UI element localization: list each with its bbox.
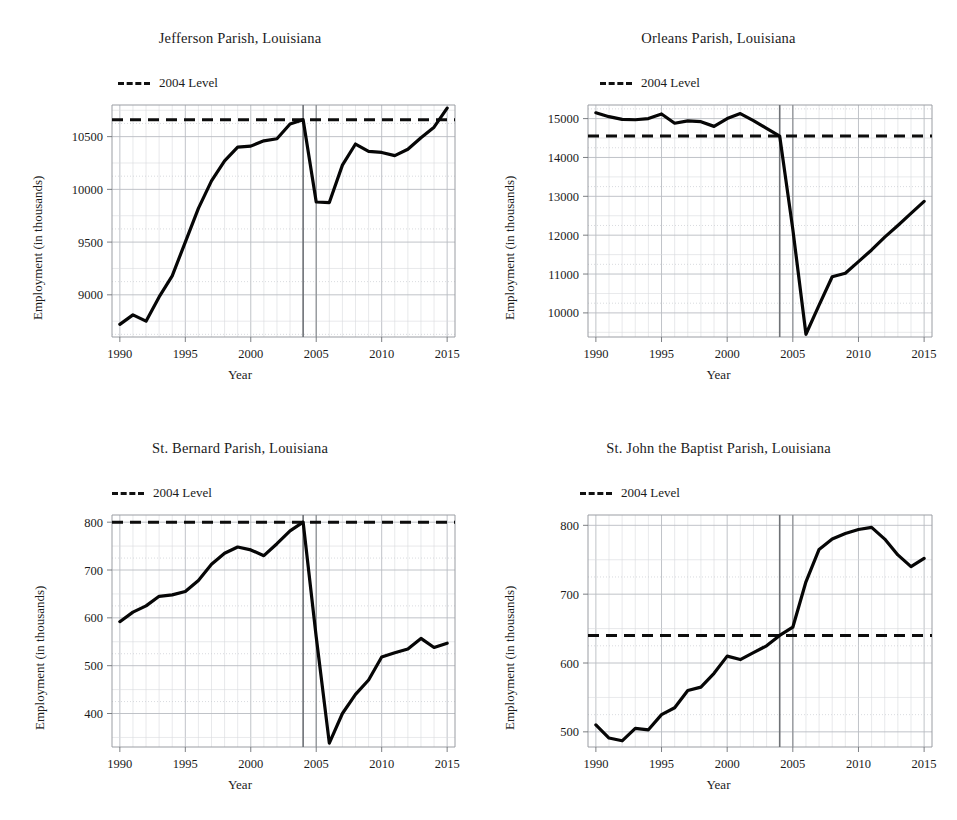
x-tick-label: 2000 bbox=[238, 347, 263, 361]
x-tick-label: 2015 bbox=[912, 347, 937, 361]
x-tick-label: 2000 bbox=[715, 757, 740, 771]
employment-series-line bbox=[596, 113, 924, 335]
y-axis-label-orleans: Employment (in thousands) bbox=[502, 176, 518, 320]
employment-series-line bbox=[120, 522, 447, 743]
chart-panel-jefferson: Jefferson Parish, Louisiana 2004 Level 1… bbox=[0, 0, 480, 410]
x-tick-label: 2015 bbox=[912, 757, 937, 771]
x-axis-label-st-john: Year bbox=[480, 777, 957, 793]
y-tick-label: 11000 bbox=[548, 268, 579, 282]
y-axis-label-st-bernard: Employment (in thousands) bbox=[32, 586, 48, 730]
x-tick-label: 1995 bbox=[173, 757, 198, 771]
y-tick-label: 10500 bbox=[72, 130, 103, 144]
y-tick-label: 700 bbox=[84, 564, 103, 578]
y-tick-label: 500 bbox=[84, 659, 103, 673]
y-tick-label: 700 bbox=[560, 588, 579, 602]
x-tick-label: 1995 bbox=[649, 757, 674, 771]
y-tick-label: 10000 bbox=[548, 306, 579, 320]
plot-jefferson: 1990199520002005201020159000950010000105… bbox=[0, 0, 480, 410]
y-tick-label: 400 bbox=[84, 707, 103, 721]
employment-series-line bbox=[120, 108, 447, 324]
y-tick-label: 13000 bbox=[548, 190, 579, 204]
plot-st-john: 199019952000200520102015500600700800 bbox=[480, 410, 957, 820]
chart-panel-st-john: St. John the Baptist Parish, Louisiana 2… bbox=[480, 410, 957, 820]
x-tick-label: 2010 bbox=[846, 347, 871, 361]
x-tick-label: 2005 bbox=[304, 757, 329, 771]
y-tick-label: 15000 bbox=[548, 112, 579, 126]
y-axis-label-st-john: Employment (in thousands) bbox=[502, 586, 518, 730]
x-tick-label: 2010 bbox=[846, 757, 871, 771]
x-tick-label: 2000 bbox=[715, 347, 740, 361]
plot-st-bernard: 199019952000200520102015400500600700800 bbox=[0, 410, 480, 820]
y-axis-label-jefferson: Employment (in thousands) bbox=[30, 176, 46, 320]
chart-panel-st-bernard: St. Bernard Parish, Louisiana 2004 Level… bbox=[0, 410, 480, 820]
x-tick-label: 1990 bbox=[583, 347, 608, 361]
x-axis-label-orleans: Year bbox=[480, 367, 957, 383]
x-tick-label: 2005 bbox=[780, 347, 805, 361]
y-tick-label: 9000 bbox=[78, 288, 103, 302]
x-tick-label: 2010 bbox=[369, 757, 394, 771]
y-tick-label: 12000 bbox=[548, 229, 579, 243]
y-tick-label: 9500 bbox=[78, 236, 103, 250]
x-tick-label: 1990 bbox=[107, 347, 132, 361]
x-tick-label: 1990 bbox=[107, 757, 132, 771]
y-tick-label: 800 bbox=[560, 519, 579, 533]
y-tick-label: 600 bbox=[560, 657, 579, 671]
x-tick-label: 1995 bbox=[649, 347, 674, 361]
x-tick-label: 2005 bbox=[780, 757, 805, 771]
x-axis-label-st-bernard: Year bbox=[0, 777, 480, 793]
y-tick-label: 800 bbox=[84, 516, 103, 530]
x-tick-label: 2005 bbox=[304, 347, 329, 361]
chart-panel-orleans: Orleans Parish, Louisiana 2004 Level 199… bbox=[480, 0, 957, 410]
y-tick-label: 10000 bbox=[72, 183, 103, 197]
x-tick-label: 1990 bbox=[583, 757, 608, 771]
x-tick-label: 2015 bbox=[435, 757, 460, 771]
x-tick-label: 1995 bbox=[173, 347, 198, 361]
x-tick-label: 2010 bbox=[369, 347, 394, 361]
y-tick-label: 500 bbox=[560, 725, 579, 739]
y-tick-label: 600 bbox=[84, 611, 103, 625]
plot-orleans: 1990199520002005201020151000011000120001… bbox=[480, 0, 957, 410]
x-tick-label: 2015 bbox=[435, 347, 460, 361]
x-tick-label: 2000 bbox=[238, 757, 263, 771]
y-tick-label: 14000 bbox=[548, 151, 579, 165]
figure-grid: Jefferson Parish, Louisiana 2004 Level 1… bbox=[0, 0, 957, 820]
x-axis-label-jefferson: Year bbox=[0, 367, 480, 383]
